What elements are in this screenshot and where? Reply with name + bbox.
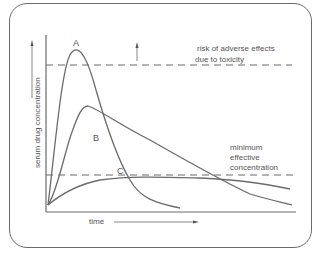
toxicity-arrowhead-icon xyxy=(136,42,139,48)
toxicity-label-line2: due to toxicity xyxy=(195,55,244,65)
mec-label-line2: effective xyxy=(230,153,260,163)
x-axis-arrowhead-icon xyxy=(193,221,199,224)
mec-label-line1: minimum xyxy=(230,143,262,153)
toxicity-label-line1: risk of adverse effects xyxy=(197,44,275,54)
mec-label-line3: concentration xyxy=(230,163,278,173)
curve-b-label: B xyxy=(93,133,99,143)
y-axis-arrowhead-icon xyxy=(31,40,34,46)
curve-c xyxy=(48,177,290,205)
curve-c-label: C xyxy=(117,166,124,176)
concentration-time-chart xyxy=(0,0,318,253)
curve-a-label: A xyxy=(73,38,79,48)
y-axis-label: serum drug concentration xyxy=(33,77,42,168)
x-axis-label: time xyxy=(89,217,104,227)
curve-a xyxy=(48,50,180,208)
